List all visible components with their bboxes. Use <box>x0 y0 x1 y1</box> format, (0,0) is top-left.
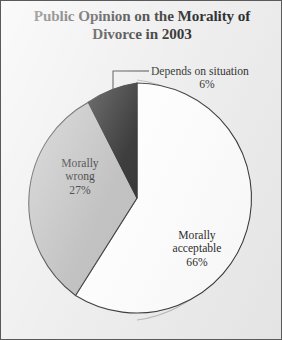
slice-label-morally-acceptable: Morally acceptable 66% <box>149 229 245 269</box>
label-text-line-2: wrong <box>65 170 95 183</box>
label-percent: 27% <box>69 184 90 197</box>
slice-label-morally-wrong: Morally wrong 27% <box>39 157 121 197</box>
label-percent: 66% <box>186 256 207 269</box>
title-line-2: Divorce in 2003 <box>92 25 191 42</box>
title-line-1: Public Opinion on the Morality of <box>34 7 251 24</box>
pie-chart-figure: Public Opinion on the Morality of Divorc… <box>0 0 282 340</box>
slice-label-depends-on-situation: Depends on situation 6% <box>151 65 277 92</box>
label-text-line-1: Depends on situation <box>151 65 249 78</box>
label-text-line-1: Morally <box>61 157 98 170</box>
label-percent: 6% <box>151 78 263 91</box>
label-text-line-1: Morally <box>178 229 215 242</box>
page-title: Public Opinion on the Morality of Divorc… <box>11 7 273 43</box>
label-text-line-2: acceptable <box>173 242 222 255</box>
